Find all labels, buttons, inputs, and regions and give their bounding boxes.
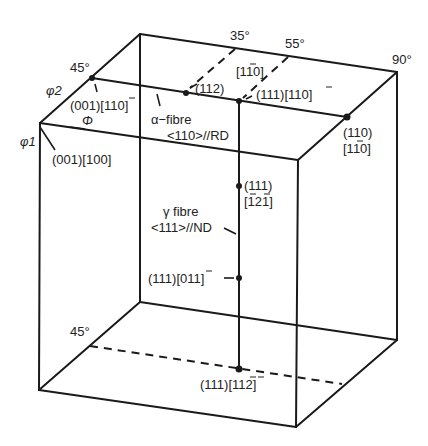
angle-label-35: 35° xyxy=(230,28,250,43)
label-alpha-fibre: α−fibre xyxy=(151,112,191,127)
label-001-1-10: (001)[110] xyxy=(70,98,128,113)
label-gamma-fibre: γ fibre xyxy=(163,204,198,219)
label-111-121: (111) xyxy=(244,178,272,193)
angle-label-45-bottom: 45° xyxy=(70,324,90,339)
axis-phi-label: Φ xyxy=(82,113,93,128)
label-110: (110) xyxy=(343,125,372,140)
label-gamma-fibre-nd: <111>//ND xyxy=(151,220,212,235)
leader-lines xyxy=(40,84,252,278)
angle-label-45-top: 45° xyxy=(70,60,90,75)
label-112: (112) xyxy=(195,81,224,96)
axis-phi1-label: φ1 xyxy=(20,134,36,149)
label-1-10-top: [110] xyxy=(236,64,264,79)
angle-label-90: 90° xyxy=(392,52,412,67)
label-110-dir: [110] xyxy=(343,141,371,156)
label-alpha-fibre-rd: <110>//RD xyxy=(167,128,229,143)
axis-phi2-label: φ2 xyxy=(46,83,62,98)
label-111-121-dir: [121] xyxy=(244,194,273,209)
label-001-100: (001)[100] xyxy=(52,152,111,167)
label-111-0-11: (111)[011] xyxy=(148,271,204,286)
label-111-112: (111)[112] xyxy=(200,377,256,392)
euler-space-diagram: 45° 35° 55° 90° 45° φ2 Φ φ1 (001)[110] (… xyxy=(0,0,428,446)
angle-label-55: 55° xyxy=(285,36,305,51)
label-111-1-10: (111)[110] xyxy=(256,87,312,102)
